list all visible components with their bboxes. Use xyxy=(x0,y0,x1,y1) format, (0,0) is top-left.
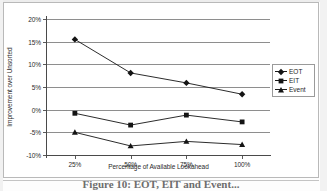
legend-item-eot[interactable]: EOT xyxy=(275,67,312,76)
diamond-icon xyxy=(275,68,287,76)
figure-container: Improvement over Unsorted 20%15%10%5%0%-… xyxy=(0,0,327,191)
data-point-marker xyxy=(127,70,133,76)
scan-edge-right xyxy=(320,0,327,191)
legend-item-label: EIT xyxy=(289,76,299,85)
y-tick-label: 5% xyxy=(32,84,41,91)
series-line xyxy=(75,39,242,94)
data-point-marker xyxy=(278,68,284,74)
chart-legend: EOTEITEvent xyxy=(272,64,315,97)
series-eot xyxy=(72,36,246,97)
y-tick-label: 15% xyxy=(28,38,41,45)
figure-caption: Figure 10: EOT, EIT and Event... xyxy=(3,181,319,191)
legend-item-eit[interactable]: EIT xyxy=(275,76,312,85)
y-tick-label: -5% xyxy=(30,129,41,136)
y-tick-label: -10% xyxy=(26,152,41,159)
data-point-marker xyxy=(72,36,78,42)
data-point-marker xyxy=(278,87,284,92)
data-point-marker xyxy=(279,78,284,83)
square-icon xyxy=(275,77,287,85)
series-layer xyxy=(47,19,270,155)
data-point-marker xyxy=(239,91,245,97)
data-point-marker xyxy=(72,129,78,134)
series-eit xyxy=(72,111,244,128)
plot-area: 20%15%10%5%0%-5%-10% 25%50%75%100% xyxy=(47,19,270,155)
data-point-marker xyxy=(240,120,245,125)
x-axis-line xyxy=(46,155,271,156)
legend-item-label: Event xyxy=(289,85,306,94)
y-tick-label: 10% xyxy=(28,61,41,68)
data-point-marker xyxy=(72,111,77,116)
x-axis-title: Percentage of Available Lookahead xyxy=(47,163,270,170)
y-axis-title: Improvement over Unsorted xyxy=(6,19,16,155)
triangle-icon xyxy=(275,86,287,94)
series-event xyxy=(72,129,245,148)
legend-item-label: EOT xyxy=(289,67,302,76)
data-point-marker xyxy=(184,113,189,118)
data-point-marker xyxy=(183,80,189,86)
data-point-marker xyxy=(128,123,133,128)
series-line xyxy=(75,113,242,125)
figure-caption-text: Figure 10: EOT, EIT and Event... xyxy=(3,181,319,190)
y-tick-label: 0% xyxy=(32,106,41,113)
y-tick-label: 20% xyxy=(28,16,41,23)
legend-item-event[interactable]: Event xyxy=(275,85,312,94)
series-line xyxy=(75,132,242,146)
